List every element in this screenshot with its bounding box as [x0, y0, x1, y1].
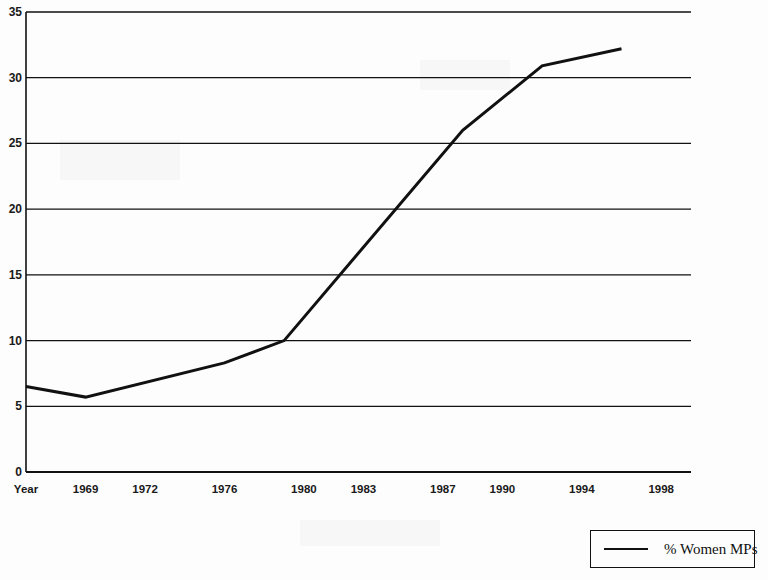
legend-item-women-mps: % Women MPs	[591, 531, 754, 567]
legend-line-swatch-icon	[604, 548, 648, 550]
y-axis-tick-label: 15	[0, 269, 22, 281]
x-axis-tick-label: 1972	[105, 483, 185, 495]
y-axis-tick-label: 30	[0, 72, 22, 84]
y-axis-tick-label: 5	[0, 400, 22, 412]
x-axis-tick-label: 1976	[185, 483, 265, 495]
y-axis-tick-label: 10	[0, 335, 22, 347]
legend: % Women MPs	[590, 530, 755, 568]
x-axis-tick-label: 1994	[542, 483, 622, 495]
x-axis-tick-label: 1998	[621, 483, 701, 495]
y-axis-tick-label: 20	[0, 203, 22, 215]
x-axis-tick-label: 1983	[323, 483, 403, 495]
legend-label: % Women MPs	[664, 541, 758, 558]
y-axis-tick-label: 35	[0, 6, 22, 18]
y-axis-tick-label: 0	[0, 466, 22, 478]
gridlines	[26, 12, 691, 472]
y-axis-tick-label: 25	[0, 137, 22, 149]
series-line-women-mps	[26, 49, 622, 397]
line-chart: 05101520253035 Year196919721976198019831…	[0, 0, 768, 580]
x-axis-tick-label: 1990	[462, 483, 542, 495]
